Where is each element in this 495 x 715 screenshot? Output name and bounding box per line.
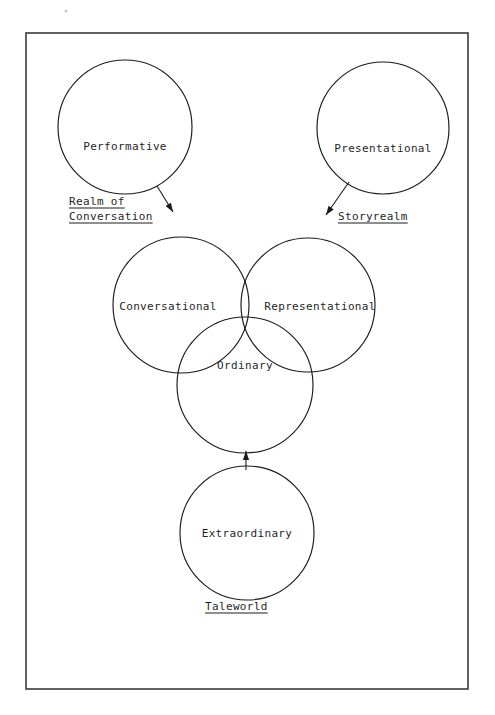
group-label-storyrealm: Storyrealm bbox=[338, 210, 408, 223]
group-label-line: Conversation bbox=[69, 210, 153, 223]
concept-diagram-svg: Performative Presentational Conversation… bbox=[0, 0, 495, 715]
group-label-line: Storyrealm bbox=[338, 210, 408, 223]
group-label-line: Realm of bbox=[69, 195, 125, 208]
group-label-line: Taleworld bbox=[205, 600, 268, 613]
group-label-taleworld: Taleworld bbox=[205, 600, 268, 613]
label-extraordinary: Extraordinary bbox=[202, 527, 293, 540]
scan-speck bbox=[64, 9, 67, 12]
label-conversational: Conversational bbox=[119, 300, 217, 313]
diagram-canvas: Performative Presentational Conversation… bbox=[0, 0, 495, 715]
label-representational: Representational bbox=[264, 300, 376, 313]
label-presentational: Presentational bbox=[334, 142, 432, 155]
label-ordinary: Ordinary bbox=[217, 359, 273, 372]
label-performative: Performative bbox=[83, 140, 167, 153]
